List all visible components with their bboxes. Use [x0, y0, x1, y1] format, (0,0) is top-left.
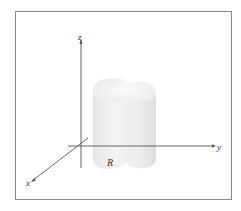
x-axis-label: x: [25, 178, 30, 188]
region-label: R: [106, 157, 113, 168]
y-axis-arrow-icon: [212, 144, 216, 147]
y-axis-label: y: [216, 142, 221, 152]
solid: [93, 78, 156, 169]
z-axis-label: z: [77, 32, 82, 42]
x-axis: [32, 138, 88, 181]
diagram-canvas: z y x R: [0, 0, 241, 211]
